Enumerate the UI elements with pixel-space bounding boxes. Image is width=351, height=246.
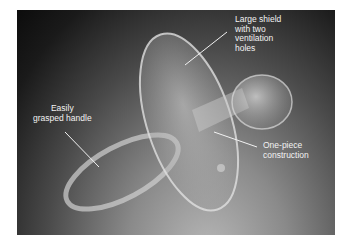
- shield-label-line: holes: [235, 44, 281, 54]
- handle-label-line: grasped handle: [33, 114, 92, 124]
- construction-label-line: construction: [263, 151, 309, 161]
- shield-label: Large shield with two ventilation holes: [235, 15, 281, 53]
- nipple-bulb: [232, 75, 292, 129]
- construction-label: One-piece construction: [263, 141, 309, 160]
- handle-callout-line: [65, 132, 99, 167]
- handle-label: Easily grasped handle: [33, 104, 92, 123]
